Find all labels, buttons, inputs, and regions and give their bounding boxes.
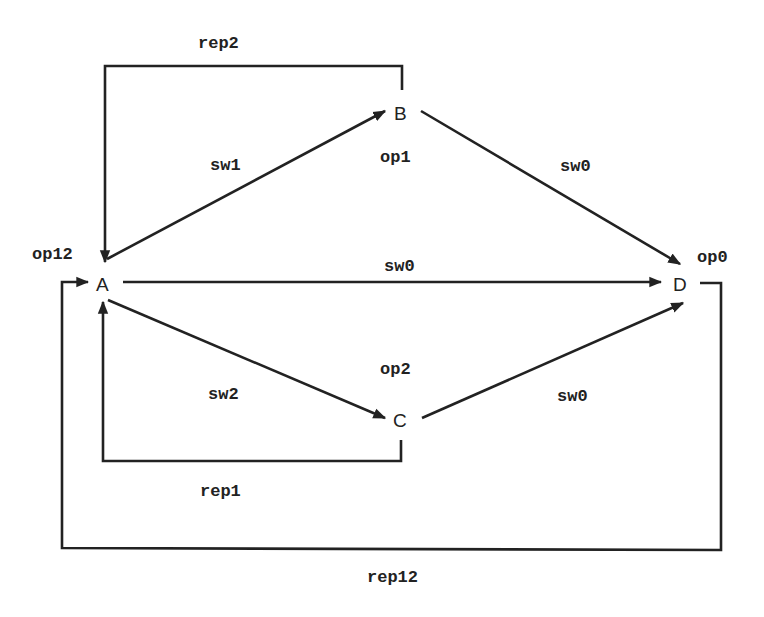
op-label-op2: op2: [380, 360, 411, 379]
edge-rep2: [105, 66, 402, 262]
edge-label-rep12: rep12: [367, 568, 418, 587]
edge-label-rep1: rep1: [200, 482, 241, 501]
edge-label-sw0-c-d: sw0: [557, 387, 588, 406]
edge-sw0-c-d: [422, 303, 683, 418]
state-diagram: rep2 sw1 sw0 sw0 sw2 sw0 rep1 rep12 A B …: [0, 0, 764, 617]
node-b: B: [394, 103, 407, 124]
op-label-op0: op0: [697, 248, 728, 267]
edge-rep1: [103, 302, 401, 461]
node-a: A: [96, 274, 109, 295]
node-d: D: [673, 274, 687, 295]
edge-sw1-a-b: [107, 111, 385, 259]
edge-sw0-b-d: [421, 111, 680, 264]
op-label-op12: op12: [32, 245, 73, 264]
op-label-op1: op1: [380, 148, 411, 167]
edge-label-sw1: sw1: [210, 156, 241, 175]
edge-label-rep2: rep2: [198, 34, 239, 53]
edge-label-sw0-a-d: sw0: [384, 257, 415, 276]
edge-sw2-a-c: [108, 300, 385, 418]
edge-label-sw2: sw2: [208, 385, 239, 404]
node-c: C: [393, 410, 407, 431]
edge-label-sw0-b-d: sw0: [560, 157, 591, 176]
